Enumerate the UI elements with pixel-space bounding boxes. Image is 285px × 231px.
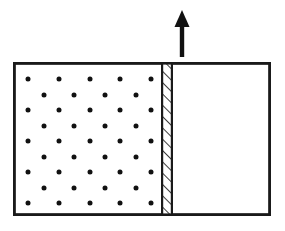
hatched-piston[interactable] [161, 62, 173, 216]
container-outline [14, 63, 269, 214]
gas-molecule-dot [149, 77, 154, 82]
gas-molecule-dot [42, 155, 47, 160]
gas-molecule-dot [103, 155, 108, 160]
gas-molecule-dot [149, 201, 154, 206]
gas-molecule-dot [88, 77, 93, 82]
gas-molecule-dot [149, 170, 154, 175]
gas-molecule-dot [118, 77, 123, 82]
gas-molecule-dot [57, 201, 62, 206]
gas-molecule-dot [72, 93, 77, 98]
gas-molecule-dot [57, 139, 62, 144]
gas-molecule-dot [26, 108, 31, 113]
gas-molecule-dot [88, 201, 93, 206]
gas-molecule-dot [57, 77, 62, 82]
gas-molecule-dot [72, 186, 77, 191]
gas-molecule-dot [149, 139, 154, 144]
arrow-shaft [180, 25, 184, 57]
gas-molecule-dot [134, 124, 139, 129]
gas-molecule-dot [118, 108, 123, 113]
gas-piston-diagram [0, 0, 285, 231]
gas-molecule-dot [57, 170, 62, 175]
gas-molecule-dot [42, 93, 47, 98]
gas-molecule-dot [134, 186, 139, 191]
gas-molecule-dot [88, 108, 93, 113]
gas-molecule-dot [103, 186, 108, 191]
gas-molecule-dot [103, 124, 108, 129]
gas-molecule-dot [118, 170, 123, 175]
gas-molecule-dot [57, 108, 62, 113]
gas-molecule-dot [72, 155, 77, 160]
diagram-canvas [0, 0, 285, 231]
gas-molecule-dot [88, 170, 93, 175]
gas-molecule-dot [26, 201, 31, 206]
gas-molecule-dot [134, 93, 139, 98]
gas-molecule-dot [149, 108, 154, 113]
gas-molecule-dot [72, 124, 77, 129]
gas-molecule-dot [26, 77, 31, 82]
gas-molecule-dot [26, 139, 31, 144]
gas-molecule-dot [103, 93, 108, 98]
gas-molecule-dot [134, 155, 139, 160]
gas-molecule-dot [42, 124, 47, 129]
gas-molecule-dot [118, 201, 123, 206]
gas-molecule-dot [26, 170, 31, 175]
gas-molecule-dot [118, 139, 123, 144]
gas-molecule-dot [88, 139, 93, 144]
gas-molecule-dot [42, 186, 47, 191]
